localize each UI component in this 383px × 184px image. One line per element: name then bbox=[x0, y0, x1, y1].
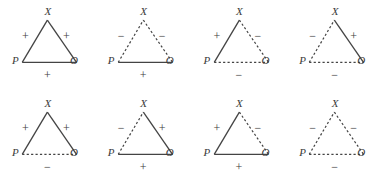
triad-5: XPO++− bbox=[0, 92, 96, 184]
vertex-label-o: O bbox=[166, 55, 174, 66]
vertex-label-p: P bbox=[204, 147, 211, 158]
sign-edge-p-o: + bbox=[140, 161, 147, 173]
vertex-label-x: X bbox=[45, 98, 52, 109]
triad-figure: XPO+++XPO−−+XPO+−−XPO−+−XPO++−XPO−++XPO+… bbox=[0, 0, 383, 183]
sign-edge-p-x: − bbox=[309, 122, 316, 134]
triad-7: XPO+−+ bbox=[192, 92, 288, 184]
triad-3: XPO+−− bbox=[192, 0, 288, 92]
sign-edge-p-x: − bbox=[118, 30, 125, 42]
vertex-label-x: X bbox=[236, 98, 243, 109]
vertex-label-p: P bbox=[299, 55, 306, 66]
vertex-label-p: P bbox=[204, 55, 211, 66]
sign-edge-p-o: − bbox=[44, 161, 51, 173]
triad-1: XPO+++ bbox=[0, 0, 96, 92]
vertex-label-p: P bbox=[108, 55, 115, 66]
vertex-label-p: P bbox=[299, 147, 306, 158]
sign-edge-x-o: + bbox=[63, 122, 70, 134]
sign-edge-p-o: + bbox=[236, 161, 243, 173]
sign-edge-p-x: + bbox=[214, 30, 221, 42]
vertex-label-x: X bbox=[140, 6, 147, 17]
triad-8: XPO−−− bbox=[287, 92, 383, 184]
sign-edge-x-o: − bbox=[255, 122, 262, 134]
sign-edge-p-o: + bbox=[44, 69, 51, 81]
triad-grid: XPO+++XPO−−+XPO+−−XPO−+−XPO++−XPO−++XPO+… bbox=[0, 0, 383, 183]
vertex-label-x: X bbox=[236, 6, 243, 17]
sign-edge-x-o: + bbox=[350, 30, 357, 42]
sign-edge-x-o: − bbox=[350, 122, 357, 134]
sign-edge-p-o: − bbox=[331, 161, 338, 173]
sign-edge-p-o: − bbox=[331, 69, 338, 81]
vertex-label-p: P bbox=[12, 147, 19, 158]
triad-6: XPO−++ bbox=[96, 92, 192, 184]
sign-edge-p-o: + bbox=[140, 69, 147, 81]
vertex-label-x: X bbox=[332, 6, 339, 17]
vertex-label-p: P bbox=[12, 55, 19, 66]
sign-edge-p-x: + bbox=[22, 122, 29, 134]
vertex-label-o: O bbox=[262, 147, 270, 158]
vertex-label-o: O bbox=[357, 55, 365, 66]
vertex-label-x: X bbox=[140, 98, 147, 109]
vertex-label-p: P bbox=[108, 147, 115, 158]
vertex-label-o: O bbox=[357, 147, 365, 158]
sign-edge-p-x: + bbox=[22, 30, 29, 42]
vertex-label-o: O bbox=[262, 55, 270, 66]
vertex-label-x: X bbox=[45, 6, 52, 17]
sign-edge-x-o: + bbox=[159, 122, 166, 134]
sign-edge-p-o: − bbox=[236, 69, 243, 81]
sign-edge-x-o: − bbox=[255, 30, 262, 42]
triad-2: XPO−−+ bbox=[96, 0, 192, 92]
sign-edge-x-o: + bbox=[63, 30, 70, 42]
sign-edge-p-x: − bbox=[118, 122, 125, 134]
sign-edge-p-x: + bbox=[214, 122, 221, 134]
triad-4: XPO−+− bbox=[287, 0, 383, 92]
vertex-label-o: O bbox=[70, 147, 78, 158]
vertex-label-o: O bbox=[166, 147, 174, 158]
sign-edge-p-x: − bbox=[309, 30, 316, 42]
vertex-label-x: X bbox=[332, 98, 339, 109]
vertex-label-o: O bbox=[70, 55, 78, 66]
sign-edge-x-o: − bbox=[159, 30, 166, 42]
